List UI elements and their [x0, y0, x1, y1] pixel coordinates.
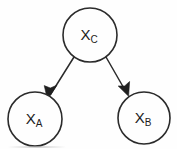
node-xc[interactable]: XC [63, 8, 117, 62]
edges-group [44, 57, 129, 100]
node-xb[interactable]: XB [118, 92, 170, 144]
edge-xc-to-xa [44, 57, 74, 100]
node-xc-base: X [81, 26, 91, 43]
node-xc-subscript: C [90, 34, 97, 45]
causal-graph-figure: XC XA XB [0, 0, 177, 149]
node-xa-base: X [26, 110, 36, 127]
node-xa-subscript: A [36, 118, 43, 129]
edge-xc-to-xb [106, 57, 130, 96]
node-xb-subscript: B [145, 117, 152, 128]
node-xb-base: X [135, 109, 145, 126]
graph-canvas: XC XA XB [0, 0, 177, 149]
nodes-group: XC XA XB [8, 8, 170, 146]
arrowhead-xc-xb [118, 82, 129, 97]
node-xa[interactable]: XA [8, 92, 62, 146]
